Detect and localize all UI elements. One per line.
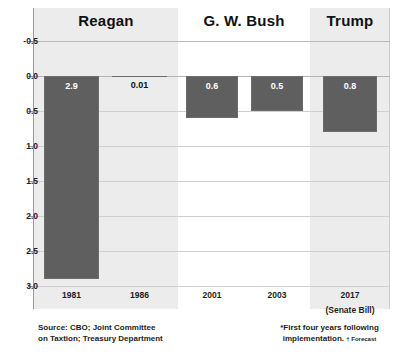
era-label-reagan: Reagan xyxy=(34,10,178,32)
xtick-label-1986: 1986 xyxy=(112,290,167,300)
bar-2003: 0.5 xyxy=(251,76,303,111)
era-label-bush: G. W. Bush xyxy=(178,10,310,32)
gridline--0.5 xyxy=(33,41,390,42)
xtick-label-2003: 2003 xyxy=(251,290,303,300)
ytick-label-0.0: 0.0 xyxy=(10,71,38,81)
footnote-note-implementation: implementation. xyxy=(283,334,344,343)
xtick-sublabel-2017: (Senate Bill) xyxy=(300,305,400,315)
bar-value-1981: 2.9 xyxy=(45,81,98,91)
footnote-source: Source: CBO; Joint Committee on Taxtion;… xyxy=(38,322,228,344)
ytick-label-2.0: 2.0 xyxy=(10,211,38,221)
footnote-note: *First four years following implementati… xyxy=(262,322,397,345)
bar-1981: 2.9 xyxy=(44,76,99,279)
bar-value-2003: 0.5 xyxy=(252,81,302,91)
bar-2001: 0.6 xyxy=(186,76,238,118)
ytick-label-1.5: 1.5 xyxy=(10,176,38,186)
footnote-source-line1: Source: CBO; Joint Committee xyxy=(38,322,228,333)
ytick-label--0.5: -0.5 xyxy=(10,36,38,46)
ytick-label-2.5: 2.5 xyxy=(10,246,38,256)
bar-value-2001: 0.6 xyxy=(187,81,237,91)
ytick-label-0.5: 0.5 xyxy=(10,106,38,116)
bar-value-1986: 0.01 xyxy=(112,80,167,90)
era-label-trump: Trump xyxy=(310,10,390,32)
xtick-label-2017: 2017 xyxy=(323,290,377,300)
bar-1986 xyxy=(112,76,167,77)
xtick-label-2001: 2001 xyxy=(186,290,238,300)
bar-value-2017: 0.8 xyxy=(324,81,376,91)
footnote-note-line2: implementation. † Forecast xyxy=(262,333,397,345)
bar-2017: 0.8 xyxy=(323,76,377,132)
bar-chart-figure: Reagan G. W. Bush Trump -0.5 0.0 0.5 1.0… xyxy=(0,0,403,363)
xtick-label-1981: 1981 xyxy=(44,290,99,300)
footnote-forecast: † Forecast xyxy=(346,336,376,342)
footnote-source-line2: on Taxtion; Treasury Department xyxy=(38,333,228,344)
footnote-note-line1: *First four years following xyxy=(262,322,397,333)
ytick-label-1.0: 1.0 xyxy=(10,141,38,151)
ytick-label-3.0: 3.0 xyxy=(10,281,38,291)
gridline-3.0 xyxy=(33,286,390,287)
